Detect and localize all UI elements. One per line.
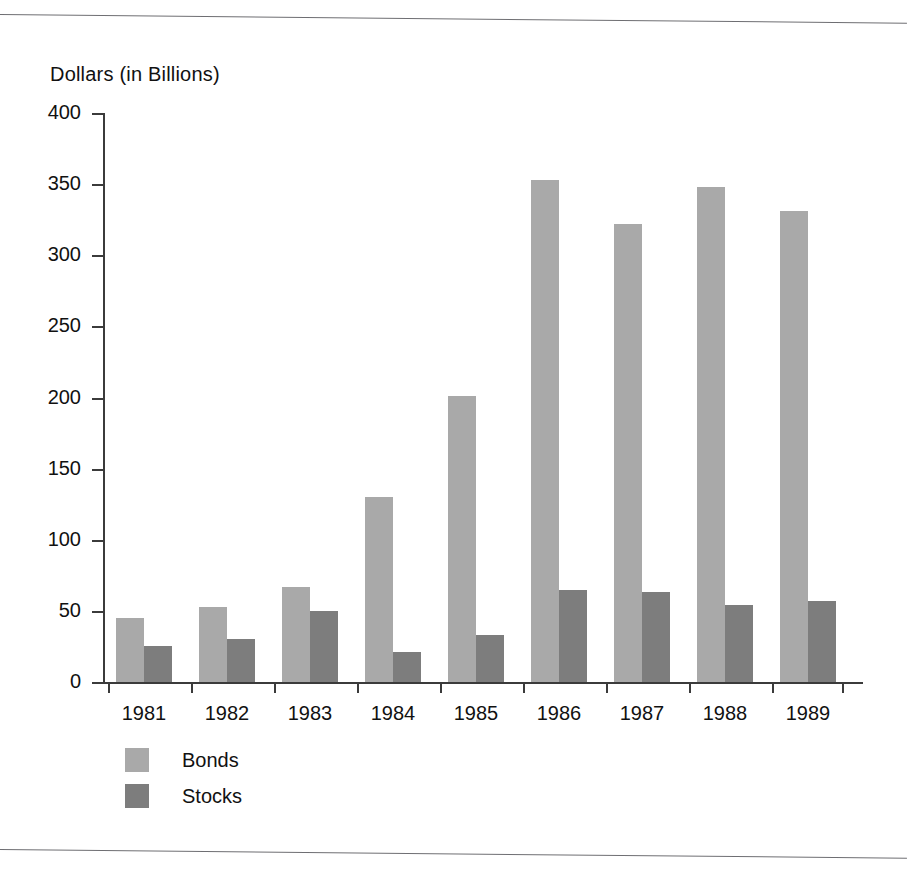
chart-legend: BondsStocks: [125, 742, 242, 814]
bar-bonds-1984: [365, 497, 393, 682]
y-tick: 100: [92, 540, 103, 542]
y-tick-label: 100: [48, 528, 81, 551]
bar-bonds-1985: [448, 396, 476, 682]
x-axis-line: [103, 682, 863, 684]
bar-bonds-1988: [697, 187, 725, 682]
x-tick-label-1986: 1986: [537, 702, 582, 725]
legend-label-stocks: Stocks: [182, 785, 242, 808]
y-tick: 350: [92, 184, 103, 186]
plot-area: 050100150200250300350400 198119821983198…: [103, 113, 863, 683]
page-rule-top: [0, 14, 907, 24]
y-tick: 300: [92, 255, 103, 257]
legend-item-stocks: Stocks: [125, 778, 242, 814]
y-tick-label: 50: [59, 599, 81, 622]
y-tick: 250: [92, 326, 103, 328]
y-tick: 400: [92, 113, 103, 115]
legend-label-bonds: Bonds: [182, 749, 239, 772]
x-tick-label-1987: 1987: [620, 702, 665, 725]
x-tick: [440, 682, 442, 693]
y-tick: 0: [92, 682, 103, 684]
x-tick: [772, 682, 774, 693]
x-tick: [274, 682, 276, 693]
bar-bonds-1987: [614, 224, 642, 682]
y-axis-title: Dollars (in Billions): [50, 63, 220, 86]
x-tick-label-1985: 1985: [454, 702, 499, 725]
x-tick: [606, 682, 608, 693]
x-tick-label-1989: 1989: [786, 702, 831, 725]
bar-bonds-1981: [116, 618, 144, 682]
x-tick-label-1988: 1988: [703, 702, 748, 725]
x-tick-label-1982: 1982: [205, 702, 250, 725]
bar-stocks-1987: [642, 592, 670, 682]
y-tick-label: 0: [70, 670, 81, 693]
y-tick: 50: [92, 611, 103, 613]
x-tick: [689, 682, 691, 693]
y-tick-label: 300: [48, 243, 81, 266]
bar-stocks-1989: [808, 601, 836, 682]
y-tick-label: 150: [48, 457, 81, 480]
bar-stocks-1983: [310, 611, 338, 682]
x-tick: [523, 682, 525, 693]
bar-chart-figure: Dollars (in Billions) 050100150200250300…: [0, 0, 907, 878]
x-tick: [842, 682, 844, 693]
bar-stocks-1986: [559, 590, 587, 682]
bar-bonds-1982: [199, 607, 227, 682]
bar-bonds-1986: [531, 180, 559, 682]
x-tick-label-1983: 1983: [288, 702, 333, 725]
y-tick-label: 250: [48, 314, 81, 337]
y-tick-label: 400: [48, 101, 81, 124]
y-tick: 150: [92, 469, 103, 471]
page-rule-bottom: [0, 849, 907, 859]
bar-stocks-1981: [144, 646, 172, 682]
bar-bonds-1983: [282, 587, 310, 682]
y-axis-line: [103, 113, 105, 684]
bar-stocks-1985: [476, 635, 504, 682]
y-tick-label: 200: [48, 386, 81, 409]
legend-item-bonds: Bonds: [125, 742, 242, 778]
y-tick-label: 350: [48, 172, 81, 195]
bar-stocks-1988: [725, 605, 753, 682]
x-tick-label-1981: 1981: [122, 702, 167, 725]
bar-stocks-1982: [227, 639, 255, 682]
bar-stocks-1984: [393, 652, 421, 682]
x-tick-label-1984: 1984: [371, 702, 416, 725]
x-tick: [357, 682, 359, 693]
legend-swatch-bonds: [125, 748, 149, 772]
x-tick: [191, 682, 193, 693]
y-tick: 200: [92, 398, 103, 400]
x-tick: [108, 682, 110, 693]
bar-bonds-1989: [780, 211, 808, 682]
legend-swatch-stocks: [125, 784, 149, 808]
